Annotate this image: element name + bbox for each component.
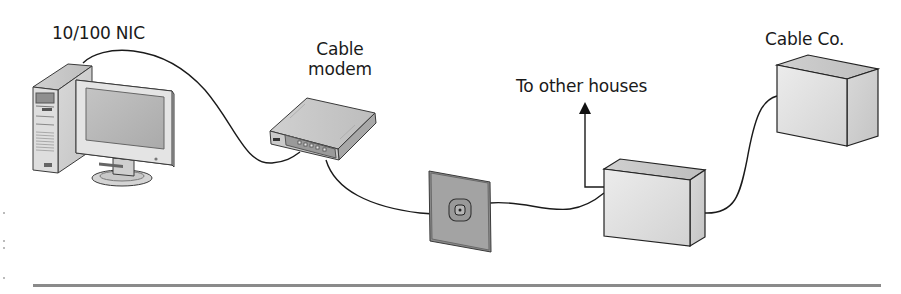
arrow-head-up-icon [579, 102, 591, 114]
label-cable-co: Cable Co. [765, 29, 844, 49]
edge-marks [3, 212, 5, 279]
splitter-box [604, 159, 705, 246]
label-cable-modem-line2: modem [300, 59, 380, 79]
bottom-rule [33, 284, 881, 287]
wall-jack [429, 171, 491, 252]
label-cable-modem-line1: Cable [300, 39, 380, 59]
monitor [76, 80, 174, 186]
monitor-screen [86, 88, 164, 149]
label-nic: 10/100 NIC [52, 23, 145, 43]
cable-walljack-to-splitter [490, 193, 604, 209]
cable-co-box [777, 55, 878, 146]
cable-modem [270, 98, 376, 160]
label-other-houses: To other houses [516, 76, 647, 96]
arrow-line-other-houses [585, 112, 604, 187]
cable-splitter-to-cableco [705, 96, 777, 213]
label-cable-modem: Cable modem [300, 39, 380, 79]
